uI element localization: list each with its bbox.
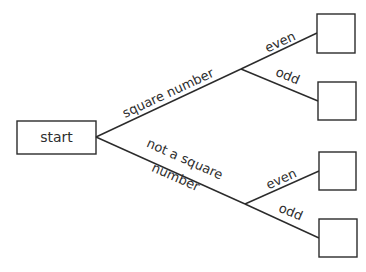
start-label: start <box>40 129 73 145</box>
edge-square-number <box>96 69 241 137</box>
branch-label-square-even: even <box>262 28 297 55</box>
outcome-box-not-square-even[interactable] <box>319 152 356 190</box>
outcome-box-square-odd[interactable] <box>318 82 356 120</box>
branch-label-square-number: square number <box>120 65 217 121</box>
start-node: start <box>17 121 96 154</box>
tree-diagram: start square number not a square number … <box>0 0 366 272</box>
outcome-box-not-square-odd[interactable] <box>319 219 357 257</box>
outcome-box-square-even[interactable] <box>317 14 355 53</box>
